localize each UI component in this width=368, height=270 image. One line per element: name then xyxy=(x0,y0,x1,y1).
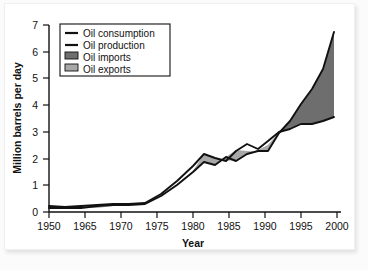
y-axis-title: Million barrels per day xyxy=(11,62,23,174)
figure-card: 7 6 5 4 3 2 1 0 19 xyxy=(4,3,355,250)
x-axis-ticks xyxy=(49,212,337,218)
legend-swatch-marker xyxy=(65,64,78,71)
y-tick-label: 7 xyxy=(32,19,38,31)
oil-production-line xyxy=(49,117,334,207)
x-tick-label: 1995 xyxy=(289,220,313,232)
x-tick-label: 1950 xyxy=(37,220,61,232)
y-tick-label: 5 xyxy=(32,72,38,84)
figure-root: 7 6 5 4 3 2 1 0 19 xyxy=(0,0,368,270)
x-tick-label: 1970 xyxy=(109,220,133,232)
oil-supply-chart: 7 6 5 4 3 2 1 0 19 xyxy=(5,4,356,251)
y-tick-label: 6 xyxy=(32,46,38,58)
x-axis-tick-labels: 1950 1965 1970 1975 1980 1985 1990 1995 … xyxy=(37,220,349,232)
x-tick-label: 1980 xyxy=(181,220,205,232)
oil-exports-band xyxy=(49,132,279,209)
x-tick-label: 1965 xyxy=(73,220,97,232)
y-tick-label: 1 xyxy=(32,179,38,191)
y-tick-label: 3 xyxy=(32,126,38,138)
x-axis-title: Year xyxy=(182,237,204,249)
x-tick-label: 1990 xyxy=(253,220,277,232)
y-tick-label: 4 xyxy=(32,99,38,111)
legend-label: Oil exports xyxy=(83,64,131,75)
legend-label: Oil imports xyxy=(83,52,131,63)
x-tick-label: 1975 xyxy=(145,220,169,232)
legend-label: Oil consumption xyxy=(83,28,155,39)
y-tick-label: 2 xyxy=(32,153,38,165)
y-tick-label: 0 xyxy=(32,206,38,218)
legend-label: Oil production xyxy=(83,40,145,51)
caption-strip xyxy=(4,252,355,268)
y-axis-tick-labels: 7 6 5 4 3 2 1 0 xyxy=(32,19,38,218)
y-axis-ticks xyxy=(43,25,49,212)
oil-imports-band xyxy=(279,32,334,133)
legend-swatch-marker xyxy=(65,52,78,59)
x-tick-label: 1985 xyxy=(217,220,241,232)
chart-legend: Oil consumption Oil production Oil impor… xyxy=(60,24,170,76)
x-tick-label: 2000 xyxy=(325,220,349,232)
